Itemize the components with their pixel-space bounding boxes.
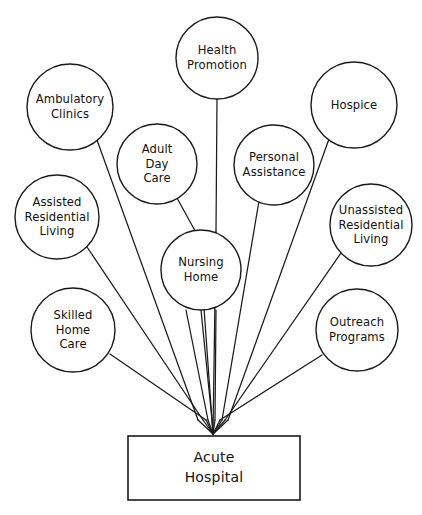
node-label-nursing-home: Home <box>184 270 219 284</box>
node-label-adult-day-care: Day <box>145 157 168 171</box>
node-label-unassisted-residential-living: Living <box>353 232 388 246</box>
node-adult-day-care[interactable]: AdultDayCare <box>117 124 197 204</box>
hub-rectangle-acute-hospital <box>128 436 300 500</box>
hub-layer: AcuteHospital <box>128 436 300 500</box>
node-label-outreach-programs: Outreach <box>330 315 384 329</box>
node-skilled-home-care[interactable]: SkilledHomeCare <box>31 288 115 372</box>
node-label-assisted-residential-living: Living <box>39 224 74 238</box>
node-hospice[interactable]: Hospice <box>311 62 397 148</box>
hub-label-acute-hospital: Acute <box>193 449 234 465</box>
node-label-health-promotion: Promotion <box>187 58 247 72</box>
node-unassisted-residential-living[interactable]: UnassistedResidentialLiving <box>330 184 412 266</box>
node-assisted-residential-living[interactable]: AssistedResidentialLiving <box>15 175 99 259</box>
node-label-assisted-residential-living: Residential <box>25 210 90 224</box>
node-ambulatory-clinics[interactable]: AmbulatoryClinics <box>27 64 113 150</box>
edge-nursing-home <box>201 310 212 420</box>
node-label-personal-assistance: Assistance <box>243 165 306 179</box>
organization-diagram: HealthPromotionAmbulatoryClinicsHospiceA… <box>0 0 422 515</box>
node-health-promotion[interactable]: HealthPromotion <box>176 17 258 99</box>
edge-personal-assistance <box>222 201 259 420</box>
node-label-skilled-home-care: Care <box>59 337 86 351</box>
node-label-adult-day-care: Adult <box>142 142 173 156</box>
node-label-personal-assistance: Personal <box>249 150 299 164</box>
node-personal-assistance[interactable]: PersonalAssistance <box>234 125 314 205</box>
node-nursing-home[interactable]: NursingHome <box>161 230 241 310</box>
diagram-canvas: HealthPromotionAmbulatoryClinicsHospiceA… <box>0 0 422 515</box>
node-label-hospice: Hospice <box>331 98 378 112</box>
node-label-adult-day-care: Care <box>143 171 170 185</box>
node-label-nursing-home: Nursing <box>178 255 223 269</box>
edge-skilled-home-care <box>110 354 206 420</box>
node-outreach-programs[interactable]: OutreachPrograms <box>316 289 398 371</box>
node-label-skilled-home-care: Home <box>56 323 91 337</box>
node-label-assisted-residential-living: Assisted <box>32 195 81 209</box>
node-label-health-promotion: Health <box>198 43 237 57</box>
edge-outreach-programs <box>220 355 322 420</box>
hub-label-acute-hospital: Hospital <box>185 469 244 485</box>
node-label-unassisted-residential-living: Unassisted <box>339 203 403 217</box>
node-label-ambulatory-clinics: Ambulatory <box>36 92 105 106</box>
node-label-outreach-programs: Programs <box>329 330 385 344</box>
node-label-ambulatory-clinics: Clinics <box>51 107 89 121</box>
node-label-skilled-home-care: Skilled <box>54 308 93 322</box>
edge-health-promotion <box>216 99 217 231</box>
nodes-layer: HealthPromotionAmbulatoryClinicsHospiceA… <box>15 17 412 372</box>
node-label-unassisted-residential-living: Residential <box>339 218 404 232</box>
hub-acute-hospital[interactable]: AcuteHospital <box>128 436 300 500</box>
